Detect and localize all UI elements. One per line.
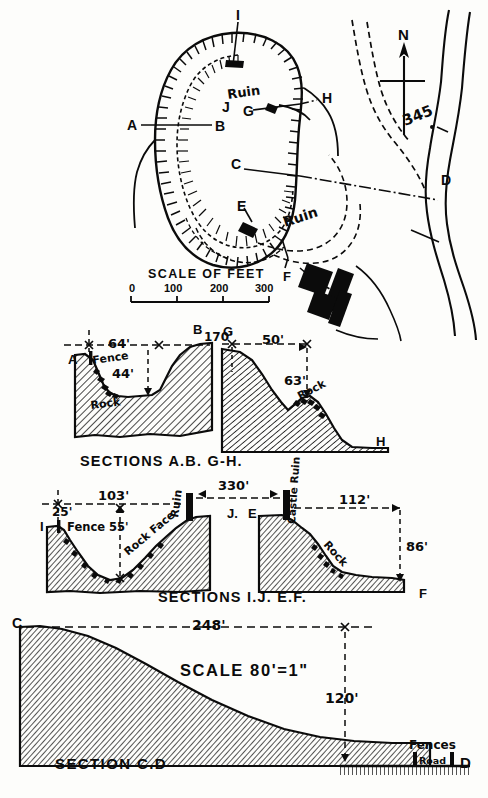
dimension-44ft: 44' (112, 366, 134, 381)
plan-label-F: F (283, 269, 291, 284)
section-cd-caption: SECTION C.D (55, 755, 167, 772)
section-label-I: I (40, 519, 44, 534)
dimension-330ft: 330' (218, 478, 249, 493)
dimension-103ft: 103' (98, 488, 129, 503)
plan-label-E: E (237, 198, 246, 214)
section-abgh-caption: SECTIONS A.B. G-H. (80, 453, 243, 469)
plan-label-C: C (231, 156, 241, 172)
compass-north-label: N (398, 26, 409, 43)
scale-tick-label-200: 200 (210, 282, 228, 294)
scale-tick-label-0: 0 (129, 282, 135, 294)
note-road-cd: Road (419, 755, 446, 766)
dimension-112ft: 112' (339, 492, 370, 507)
section-ij-ruin-wall (186, 493, 193, 521)
dimension-63ft: 63' (284, 373, 306, 388)
section-label-F: F (419, 586, 427, 601)
plan-label-G: G (243, 103, 254, 119)
section-label-E: E (248, 506, 257, 521)
scale-bar-title: SCALE OF FEET (148, 267, 265, 281)
dimension-50ft: 50' (262, 332, 284, 347)
plan-label-I: I (236, 7, 240, 23)
section-label-C: C (12, 615, 22, 631)
plan-label-D: D (441, 172, 451, 188)
dimension-120ft: 120' (325, 690, 359, 706)
plan-label-H: H (322, 90, 332, 106)
spot-marker (430, 125, 434, 129)
section-ij-fence-post (57, 520, 60, 533)
fence-post-left (413, 752, 417, 766)
section-ijef-caption: SECTIONS I.J. E.F. (158, 589, 307, 605)
dimension-fence-55ft: Fence 55' (67, 520, 129, 534)
dimension-86ft: 86' (406, 539, 428, 554)
plan-label-B: B (215, 118, 225, 134)
section-label-A: A (68, 352, 78, 367)
section-label-D: D (460, 754, 471, 771)
dimension-25ft: 25' (52, 505, 72, 519)
scale-tick-label-100: 100 (164, 282, 182, 294)
plan-label-A: A (127, 117, 137, 133)
section-cd-ground-line (340, 766, 470, 775)
section-cd-scale-note: SCALE 80'=1" (180, 661, 309, 679)
fence-post-right (450, 752, 454, 766)
scale-tick-label-300: 300 (255, 282, 273, 294)
section-label-H: H (376, 434, 385, 449)
note-fences-cd: Fences (409, 738, 456, 752)
dimension-248ft: 248' (192, 617, 226, 633)
section-label-J: J. (227, 506, 238, 521)
dimension-170ft: 170' (204, 330, 233, 344)
section-label-B: B (193, 322, 202, 337)
survey-drawing: N 345 A B C D E F (0, 0, 488, 798)
survey-sheet: N 345 A B C D E F (0, 0, 488, 798)
